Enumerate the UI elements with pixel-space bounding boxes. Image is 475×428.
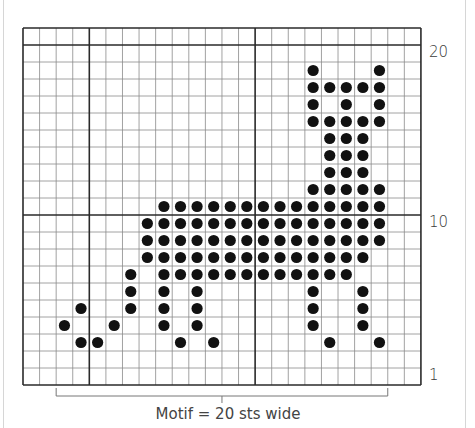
stitch-dot — [341, 167, 352, 178]
stitch-dot — [308, 116, 319, 127]
stitch-dot — [208, 269, 219, 280]
stitch-dot — [225, 269, 236, 280]
stitch-dot — [258, 269, 269, 280]
stitch-dot — [191, 252, 202, 263]
stitch-dot — [308, 65, 319, 76]
stitch-dot — [341, 99, 352, 110]
stitch-dot — [125, 269, 136, 280]
stitch-dot — [225, 201, 236, 212]
stitch-dot — [175, 218, 186, 229]
stitch-dot — [175, 201, 186, 212]
stitch-dot — [374, 65, 385, 76]
stitch-dot — [308, 99, 319, 110]
stitch-dot — [341, 82, 352, 93]
stitch-dot — [324, 116, 335, 127]
stitch-dot — [357, 133, 368, 144]
stitch-dot — [158, 235, 169, 246]
stitch-dot — [175, 252, 186, 263]
stitch-dot — [324, 235, 335, 246]
stitch-dot — [75, 337, 86, 348]
stitch-dot — [175, 337, 186, 348]
stitch-dot — [341, 269, 352, 280]
stitch-dot — [109, 320, 120, 331]
stitch-dot — [142, 218, 153, 229]
stitch-dot — [225, 235, 236, 246]
row-label-1: 1 — [429, 366, 439, 384]
stitch-dot — [241, 235, 252, 246]
stitch-dot — [274, 269, 285, 280]
stitch-dot — [208, 337, 219, 348]
stitch-dot — [308, 218, 319, 229]
stitch-dot — [258, 201, 269, 212]
stitch-dot — [374, 337, 385, 348]
stitch-dot — [341, 184, 352, 195]
stitch-dot — [291, 235, 302, 246]
stitch-dot — [208, 218, 219, 229]
stitch-dot — [142, 252, 153, 263]
stitch-dot — [357, 286, 368, 297]
stitch-dot — [59, 320, 70, 331]
stitch-dot — [357, 235, 368, 246]
stitch-dot — [291, 252, 302, 263]
stitch-dot — [274, 235, 285, 246]
stitch-dot — [241, 252, 252, 263]
stitch-dot — [191, 320, 202, 331]
stitch-dot — [374, 201, 385, 212]
stitch-dot — [158, 218, 169, 229]
stitch-dot — [308, 235, 319, 246]
stitch-dot — [241, 218, 252, 229]
stitch-dot — [274, 201, 285, 212]
stitch-dot — [324, 184, 335, 195]
stitch-dot — [274, 252, 285, 263]
stitch-dot — [374, 82, 385, 93]
stitch-dot — [324, 82, 335, 93]
stitch-dot — [374, 184, 385, 195]
stitch-dot — [291, 218, 302, 229]
stitch-dot — [341, 150, 352, 161]
stitch-dot — [191, 201, 202, 212]
stitch-dot — [191, 218, 202, 229]
stitch-dot — [374, 99, 385, 110]
motif-width-bracket — [56, 388, 388, 403]
stitch-dot — [341, 235, 352, 246]
stitch-dot — [308, 252, 319, 263]
stitch-dot — [324, 218, 335, 229]
stitch-dot — [308, 82, 319, 93]
stitch-dot — [357, 184, 368, 195]
stitch-dot — [374, 116, 385, 127]
stitch-dot — [357, 82, 368, 93]
row-label-20: 20 — [429, 43, 448, 61]
stitch-dot — [158, 201, 169, 212]
stitch-dot — [125, 303, 136, 314]
stitch-dot — [308, 269, 319, 280]
stitch-dot — [357, 252, 368, 263]
stitch-dot — [158, 320, 169, 331]
stitch-dot — [357, 218, 368, 229]
stitch-dot — [324, 150, 335, 161]
stitch-dot — [158, 252, 169, 263]
stitch-dot — [158, 286, 169, 297]
stitch-dot — [191, 286, 202, 297]
stitch-dot — [357, 201, 368, 212]
stitch-dot — [341, 133, 352, 144]
knitting-chart — [0, 0, 475, 428]
stitch-dot — [308, 286, 319, 297]
stitch-dot — [274, 218, 285, 229]
stitch-dot — [324, 167, 335, 178]
stitch-dot — [374, 218, 385, 229]
stitch-dot — [308, 303, 319, 314]
stitch-dot — [191, 235, 202, 246]
stitch-dot — [191, 269, 202, 280]
stitch-dot — [258, 252, 269, 263]
stitch-dot — [258, 235, 269, 246]
stitch-dot — [175, 269, 186, 280]
stitch-dot — [142, 235, 153, 246]
stitch-dot — [324, 252, 335, 263]
stitch-dot — [308, 320, 319, 331]
stitch-dot — [208, 201, 219, 212]
stitch-dot — [324, 201, 335, 212]
stitch-dot — [324, 269, 335, 280]
stitch-dot — [158, 303, 169, 314]
stitch-dot — [175, 235, 186, 246]
stitch-dot — [225, 252, 236, 263]
